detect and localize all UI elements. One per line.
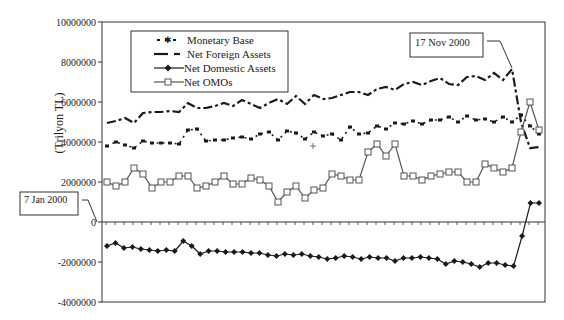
y-axis-label: (Trilyon TL) bbox=[52, 92, 66, 153]
y-axis: -4000000-2000000020000004000000600000080… bbox=[56, 17, 102, 308]
legend-label: Net OMOs bbox=[184, 76, 233, 88]
x-marker-icon: ✱ bbox=[164, 35, 172, 45]
callout-label: 7 Jan 2000 bbox=[24, 194, 67, 205]
crosshair-cursor-icon bbox=[310, 143, 316, 149]
callout-label: 17 Nov 2000 bbox=[415, 37, 470, 48]
chart-canvas: -4000000-2000000020000004000000600000080… bbox=[0, 0, 564, 320]
series-net-domestic-assets bbox=[107, 203, 539, 267]
legend-item-monetary-base: ✱ Monetary Base bbox=[157, 34, 254, 46]
series-layer bbox=[104, 69, 542, 270]
y-tick-label: 2000000 bbox=[61, 177, 96, 188]
y-tick-label: -4000000 bbox=[58, 297, 96, 308]
legend-label: Net Domestic Assets bbox=[184, 62, 276, 74]
y-tick-label: -2000000 bbox=[58, 257, 96, 268]
y-tick-label: 4000000 bbox=[61, 137, 96, 148]
callout-peak-date: 17 Nov 2000 bbox=[410, 33, 512, 68]
legend: ✱ Monetary Base Net Foreign Assets Net D… bbox=[131, 31, 288, 92]
legend-label: Monetary Base bbox=[187, 34, 254, 46]
chart: -4000000-2000000020000004000000600000080… bbox=[0, 0, 564, 320]
callout-start-date: 7 Jan 2000 bbox=[20, 192, 97, 222]
square-marker-icon bbox=[165, 79, 171, 85]
y-tick-label: 10000000 bbox=[56, 17, 96, 28]
y-tick-label: 8000000 bbox=[61, 57, 96, 68]
legend-label: Net Foreign Assets bbox=[187, 48, 271, 60]
y-tick-label: 6000000 bbox=[61, 97, 96, 108]
